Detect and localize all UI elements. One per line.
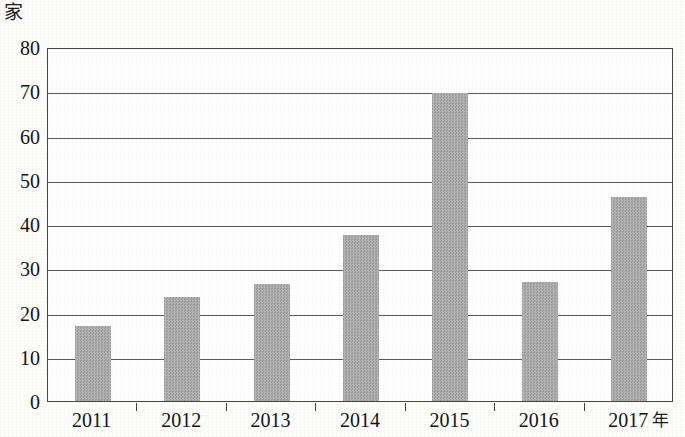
x-axis-tick-1	[136, 403, 137, 411]
y-tick-label-70: 70	[0, 82, 40, 102]
gridline-50	[48, 182, 672, 183]
x-tick-label-2012: 2012	[136, 408, 226, 432]
bar-2016	[522, 282, 558, 401]
x-tick-label-2014: 2014	[315, 408, 405, 432]
x-tick-label-2013: 2013	[226, 408, 316, 432]
gridline-40	[48, 226, 672, 227]
y-tick-label-60: 60	[0, 127, 40, 147]
y-tick-label-0: 0	[0, 392, 40, 412]
y-tick-label-80: 80	[0, 38, 40, 58]
bar-2017	[611, 197, 647, 401]
y-tick-label-40: 40	[0, 215, 40, 235]
bar-2014	[343, 235, 379, 401]
gridline-60	[48, 138, 672, 139]
plot-area	[47, 48, 673, 402]
x-tick-label-2015: 2015	[404, 408, 494, 432]
x-axis-tick-6	[584, 403, 585, 411]
y-tick-label-30: 30	[0, 259, 40, 279]
bar-2012	[164, 297, 200, 401]
bar-chart-figure: 家 01020304050607080 20112012201320142015…	[0, 0, 685, 437]
y-tick-label-10: 10	[0, 348, 40, 368]
x-tick-label-2011: 2011	[47, 408, 137, 432]
x-axis-tick-4	[405, 403, 406, 411]
x-axis-tick-3	[315, 403, 316, 411]
x-axis-tick-5	[494, 403, 495, 411]
x-axis-tick-2	[226, 403, 227, 411]
y-tick-label-50: 50	[0, 171, 40, 191]
bar-2015	[432, 93, 468, 401]
x-axis-unit-label: 年	[652, 410, 669, 432]
bar-2011	[75, 326, 111, 401]
x-tick-label-2016: 2016	[494, 408, 584, 432]
gridline-70	[48, 93, 672, 94]
bar-2013	[254, 284, 290, 401]
y-tick-label-20: 20	[0, 304, 40, 324]
